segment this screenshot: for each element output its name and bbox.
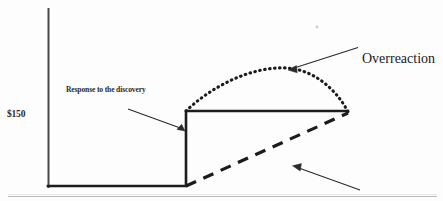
figure-canvas: $150 Response to the discovery Overreact… bbox=[0, 0, 443, 201]
scan-artifact-speck bbox=[316, 26, 319, 29]
response-annotation-arrow bbox=[128, 109, 185, 131]
y-axis-tick-label: $150 bbox=[7, 110, 25, 120]
series-efficient-step bbox=[48, 111, 348, 186]
response-annotation-label: Response to the discovery bbox=[66, 86, 146, 94]
series-delayed-dashed bbox=[186, 113, 348, 186]
chart-svg bbox=[0, 0, 443, 201]
overreaction-annotation-label: Overreaction bbox=[362, 52, 435, 66]
series-overreaction-dotted bbox=[186, 68, 348, 112]
delayed-response-pointer-arrow bbox=[293, 164, 361, 190]
